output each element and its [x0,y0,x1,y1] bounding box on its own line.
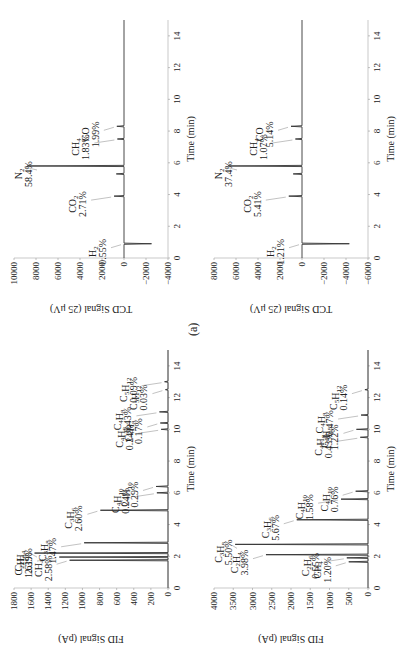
y-tick-label: −6000 [363,262,373,286]
tcd-panel-top: −4000−2000020004000600080001000002468101… [0,0,200,320]
leader-arrow [147,424,157,427]
y-tick-label: 2000 [286,592,296,611]
x-tick-label: 14 [172,361,182,371]
y-tick-label: 1200 [60,592,70,611]
fid-panel-top: 0200400600800100012001400160018000246810… [0,330,200,650]
tcd-panel-bottom: −6000−4000−20000200040006000800002468101… [200,0,400,320]
peak-percent: 0.29% [129,482,140,508]
leader-arrow [253,556,263,559]
fid-panel-bottom: 0500100015002000250030003500400002468101… [200,330,400,650]
x-axis-label: Time (min) [185,116,197,161]
y-tick-label: 3000 [248,592,258,611]
chromatogram-svg: −6000−4000−20000200040006000800002468101… [200,0,400,320]
peak-percent: 1.21% [275,239,286,265]
y-tick-label: 800 [95,592,105,606]
chromatogram-svg: 0500100015002000250030003500400002468101… [200,330,400,650]
peak-percent: 1.58% [304,494,315,520]
x-tick-label: 8 [372,128,382,133]
x-tick-label: 2 [172,554,182,559]
x-tick-label: 4 [172,522,182,527]
y-tick-label: 3500 [228,592,238,611]
leader-arrow [266,197,286,200]
y-tick-label: 6000 [231,262,241,281]
peak-percent: 37.4% [223,161,234,187]
leader-arrow [352,391,362,394]
leader-arrow [104,127,114,130]
x-tick-label: 8 [172,458,182,463]
x-tick-label: 12 [372,393,382,402]
peak-percent: 0.55% [310,553,321,579]
peak-percent: 0.43% [122,407,133,433]
x-tick-label: 12 [172,63,182,72]
leader-arrow [336,563,346,566]
y-tick-label: 0 [297,262,307,267]
y-tick-label: 8000 [31,262,41,281]
y-tick-label: −4000 [341,262,351,286]
x-tick-label: 6 [372,490,382,495]
x-tick-label: 10 [372,424,382,434]
peak-percent: 0.09% [128,377,139,403]
y-tick-label: 4000 [75,262,85,281]
figure-label: (a) [186,323,201,336]
x-tick-label: 12 [372,63,382,72]
y-tick-label: 8000 [209,262,219,281]
peak-percent: 5.41% [252,191,263,217]
x-tick-label: 0 [172,255,182,260]
y-tick-label: 0 [363,592,373,597]
peak-percent: 1.47% [47,538,58,564]
peak-percent: 58.4% [23,161,34,187]
peak-percent: 5.14% [264,121,275,147]
y-tick-label: 1800 [9,592,19,611]
leader-arrow [87,511,97,514]
y-tick-label: −4000 [163,262,173,286]
x-tick-label: 4 [172,192,182,197]
leader-arrow [278,127,288,130]
leader-arrow [343,492,353,495]
y-axis-label: FID Signal (pA) [258,633,324,645]
x-tick-label: 2 [372,224,382,229]
chromatogram-svg: −4000−2000020004000600080001000002468101… [0,0,200,320]
y-tick-label: 600 [112,592,122,606]
x-tick-label: 14 [172,31,182,41]
y-tick-label: 1500 [305,592,315,611]
y-tick-label: −2000 [319,262,329,286]
y-tick-label: 1000 [77,592,87,611]
peak-percent: 2.39% [23,548,34,574]
peak-percent: 5.67% [270,515,281,541]
peak-percent: 0.14% [338,385,349,411]
x-tick-label: 6 [372,160,382,165]
x-tick-label: 4 [372,192,382,197]
chromatogram-svg: 0200400600800100012001400160018000246810… [0,330,200,650]
leader-arrow [91,197,111,200]
leader-arrow [289,245,299,248]
y-tick-label: 400 [129,592,139,606]
peak-percent: 0.76% [329,486,340,512]
peak-percent: 1.99% [90,121,101,147]
y-tick-label: 1400 [43,592,53,611]
peak-percent: 0.55% [97,239,108,265]
chromatogram-trace [228,20,349,258]
x-tick-label: 2 [172,224,182,229]
x-tick-label: 10 [372,94,382,104]
x-tick-label: 6 [172,160,182,165]
x-axis-label: Time (min) [385,446,397,491]
y-tick-label: 10000 [9,262,19,285]
leader-arrow [61,544,81,547]
y-axis-label: TCD Signal (25 μV) [250,303,332,315]
x-tick-label: 14 [372,31,382,41]
y-tick-label: 2500 [267,592,277,611]
y-tick-label: 0 [119,262,129,267]
x-tick-label: 8 [372,458,382,463]
leader-arrow [152,391,162,394]
x-axis-label: Time (min) [185,446,197,491]
y-tick-label: 1000 [325,592,335,611]
x-tick-label: 10 [172,424,182,434]
figure-canvas: 0200400600800100012001400160018000246810… [0,0,402,658]
x-tick-label: 6 [172,490,182,495]
y-tick-label: −2000 [141,262,151,286]
x-tick-label: 2 [372,554,382,559]
x-tick-label: 14 [372,361,382,371]
leader-arrow [338,416,358,419]
leader-arrow [272,140,292,143]
y-tick-label: 1600 [26,592,36,611]
